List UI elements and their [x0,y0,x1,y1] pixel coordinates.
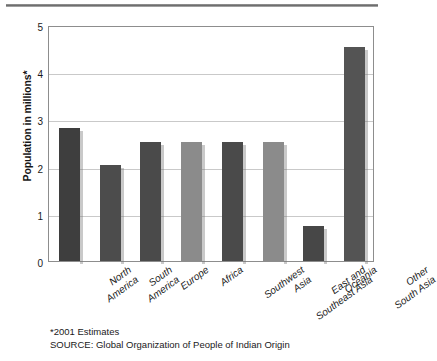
y-tick-label: 4 [37,69,43,80]
gridline [49,216,373,217]
plot-area: 012345 [48,26,374,262]
x-axis-label: SouthAmerica [138,264,181,304]
x-axis-label: Europe [178,264,211,292]
y-tick-label: 3 [37,116,43,127]
footnote-estimates: *2001 Estimates [50,326,290,339]
gridline [49,74,373,75]
bar [222,142,243,261]
header-rule [6,4,378,7]
bar [140,142,161,261]
bar-body [100,165,121,261]
bar [303,226,324,261]
bar-shadow [80,131,83,264]
y-tick-label: 2 [37,163,43,174]
bar-body [303,226,324,261]
footnote-source: SOURCE: Global Organization of People of… [50,339,290,352]
bar-body [59,128,80,261]
plot-inner: 012345 [49,27,373,261]
gridline [49,121,373,122]
x-axis-label: NorthAmerica [97,264,140,304]
bar-shadow [365,50,368,264]
x-axis-label: OtherSouth Asia [385,264,437,311]
bar [100,165,121,261]
bar-shadow [243,145,246,264]
bar-shadow [161,145,164,264]
bar-shadow [324,229,327,264]
bar-body [344,47,365,261]
bar-shadow [121,168,124,264]
gridline [49,169,373,170]
footnotes: *2001 Estimates SOURCE: Global Organizat… [50,326,290,351]
bar-body [140,142,161,261]
y-tick-label: 0 [37,258,43,269]
y-tick-label: 1 [37,210,43,221]
bar-body [181,142,202,261]
bar [181,142,202,261]
bar [344,47,365,261]
bar [59,128,80,261]
bar-body [222,142,243,261]
bar-shadow [284,145,287,264]
y-axis-title: Population in millions* [21,36,33,216]
bar-body [263,142,284,261]
y-tick-label: 5 [37,22,43,33]
x-axis-label: Africa [218,264,245,288]
bar-shadow [202,145,205,264]
bar [263,142,284,261]
